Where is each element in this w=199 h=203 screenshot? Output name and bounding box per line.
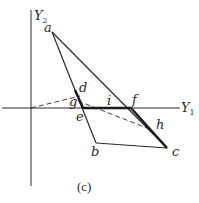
figure-caption: (c): [77, 179, 91, 194]
edge-b-c: [96, 143, 167, 148]
point-label-f: f: [131, 92, 139, 107]
point-label-d: d: [79, 80, 87, 95]
point-label-c: c: [172, 144, 180, 159]
point-label-h: h: [156, 117, 164, 132]
point-label-e: e: [76, 109, 84, 124]
y1-axis-label: Y1: [181, 100, 195, 117]
point-label-b: b: [91, 144, 99, 159]
point-label-a: a: [44, 20, 52, 35]
point-label-i: i: [107, 93, 111, 108]
edge-a-b: [52, 32, 96, 143]
diagram-canvas: Y2 Y1 a b c d e f g h i (c): [0, 0, 199, 203]
point-label-g: g: [69, 94, 77, 109]
